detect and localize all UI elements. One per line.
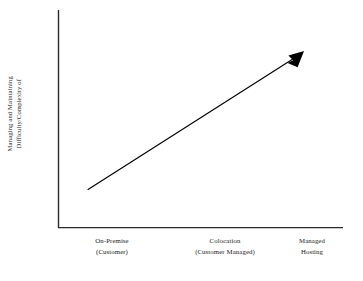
x-axis-label-line-1: Managed — [299, 236, 325, 247]
x-axis-label-line-1: On-Premise — [95, 236, 128, 247]
x-axis-label-on-premise: On-Premise (Customer) — [95, 236, 128, 257]
trend-arrow-head-icon — [288, 51, 304, 67]
x-axis-label-managed-hosting: Managed Hosting — [299, 236, 325, 257]
chart-canvas: Difficulty/Complexity of Managing and Ma… — [0, 0, 363, 281]
x-axis-label-line-2: (Customer) — [95, 247, 128, 258]
x-axis-label-line-2: (Customer Managed) — [195, 247, 255, 258]
x-axis-label-colocation: Colocation (Customer Managed) — [195, 236, 255, 257]
trend-arrow-shaft — [88, 57, 296, 190]
x-axis-label-line-2: Hosting — [299, 247, 325, 258]
x-axis-label-line-1: Colocation — [195, 236, 255, 247]
